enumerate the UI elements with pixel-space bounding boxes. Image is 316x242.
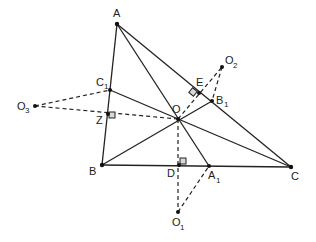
label-b: B [89,165,96,177]
point-a [115,22,119,26]
point-o2 [220,65,224,69]
point-c1 [108,88,112,92]
label-c1-subscript: 1 [104,82,109,91]
right-angle-marker-d [180,158,186,164]
cevian-c-c1 [110,90,291,167]
label-o2-subscript: 2 [233,61,238,70]
label-e: E [196,76,203,88]
point-d [177,163,181,167]
point-o3 [33,104,37,108]
point-b1 [210,99,214,103]
label-d: D [167,167,175,179]
label-c-vertex: C [291,170,299,182]
cevian-a-a1 [117,24,209,166]
segment-o1-a1 [178,166,209,212]
label-o3-subscript: 3 [25,106,30,115]
label-c1: C [96,76,104,88]
label-a: A [113,7,121,19]
label-o: O [172,103,181,115]
point-b [100,163,104,167]
right-angle-marker-z [109,112,115,118]
label-b1-subscript: 1 [224,100,229,109]
point-z [106,112,110,116]
label-o1-subscript: 1 [180,223,185,232]
label-a1: A [208,169,216,181]
label-a1-subscript: 1 [216,176,221,185]
point-o [176,117,180,121]
point-a1 [207,164,211,168]
point-c [289,165,293,169]
side-ac [117,24,291,167]
side-bc [102,165,291,167]
geometry-diagram: A B C O D E Z C 1 B 1 A 1 O 1 O 2 O 3 [0,0,316,242]
label-b1: B [216,94,223,106]
point-o1 [176,210,180,214]
label-z: Z [96,114,103,126]
segment-o3-c1 [35,90,110,106]
side-ab [102,24,117,165]
point-e [197,91,201,95]
